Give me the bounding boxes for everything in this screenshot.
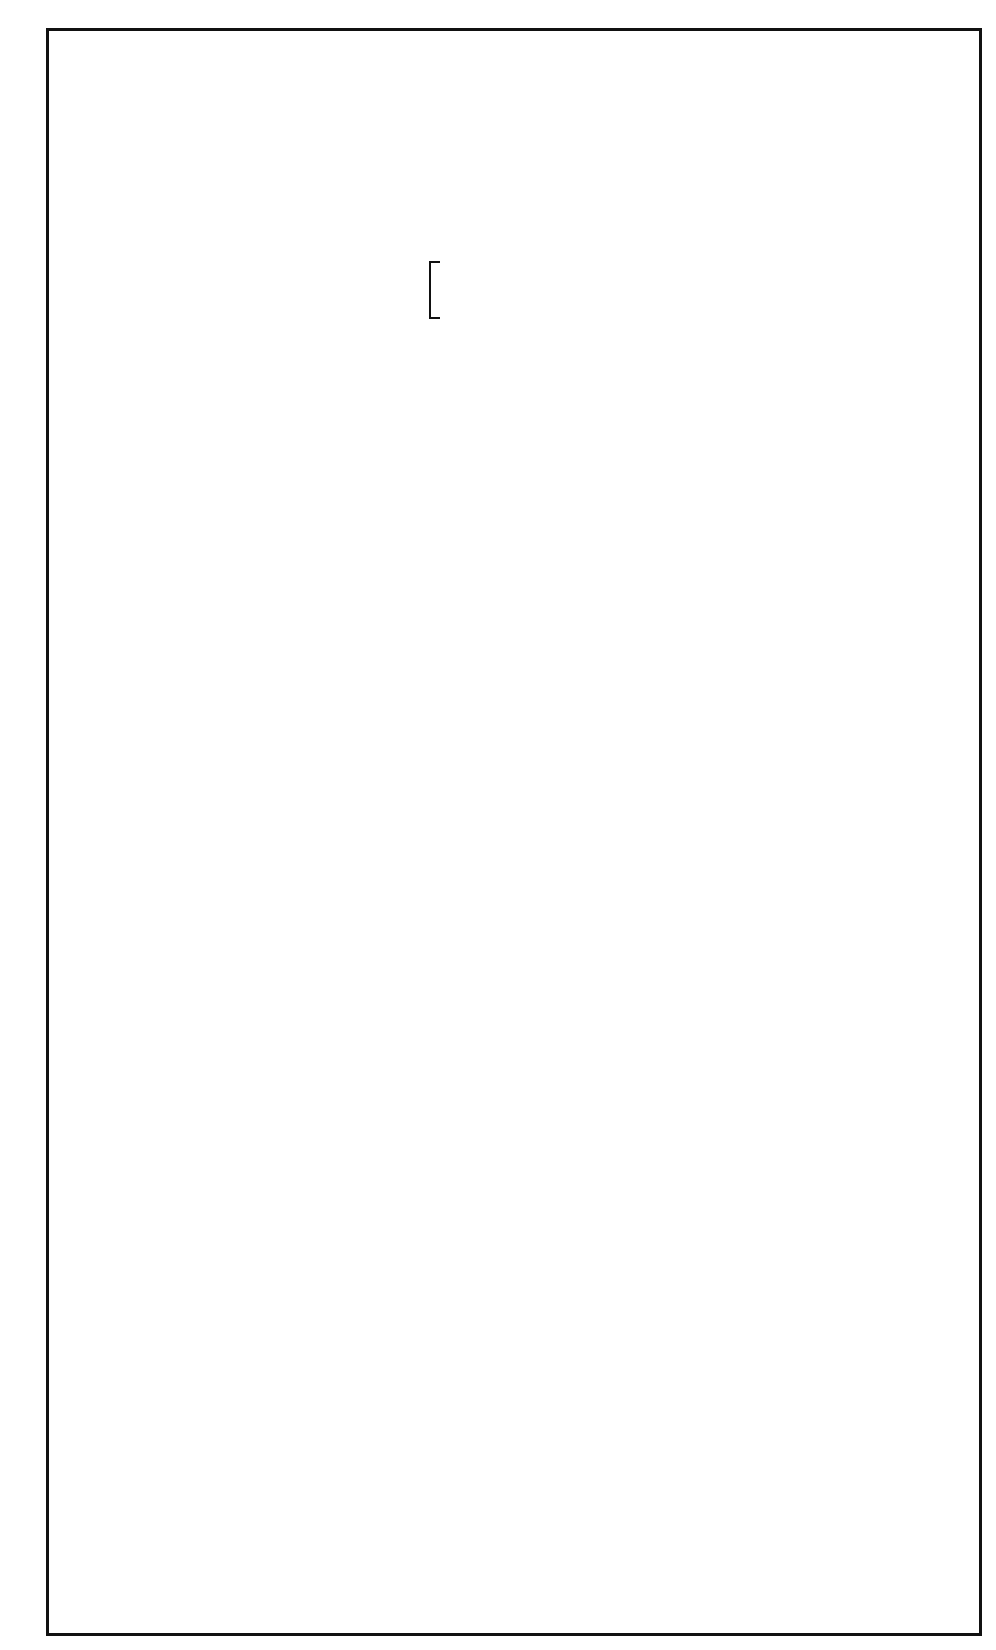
tracing-frame — [46, 28, 982, 1636]
